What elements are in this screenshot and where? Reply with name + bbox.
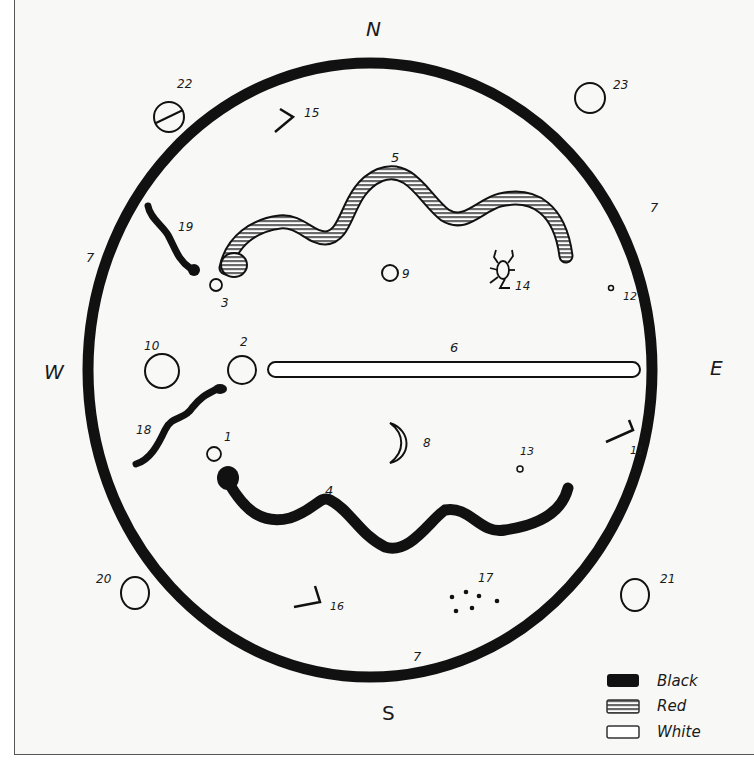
legend: Black Red White xyxy=(607,672,701,741)
dot-13-icon xyxy=(517,466,523,472)
label-7-left: 7 xyxy=(86,250,95,265)
white-bar-6-icon xyxy=(268,362,640,377)
legend-swatch-white xyxy=(607,726,639,738)
insect-14-icon xyxy=(490,250,515,288)
black-snake-19-head xyxy=(188,264,200,276)
dot-12-icon xyxy=(609,286,614,291)
label-18: 18 xyxy=(136,423,152,437)
small-circle-3-icon xyxy=(210,279,222,291)
legend-label-black: Black xyxy=(657,672,699,690)
legend-label-red: Red xyxy=(657,697,687,715)
circle-20-icon xyxy=(121,577,149,609)
dot-cluster-17-icon xyxy=(450,590,500,614)
black-snake-19-icon xyxy=(148,206,190,268)
angle-mark-15-icon xyxy=(275,109,293,132)
crossed-circle-icon xyxy=(154,102,184,132)
black-snake-18-head xyxy=(213,384,227,394)
label-5: 5 xyxy=(391,150,399,165)
label-1: 1 xyxy=(224,430,232,444)
legend-swatch-red xyxy=(607,700,639,713)
label-19: 19 xyxy=(178,220,193,234)
label-23: 23 xyxy=(613,78,628,92)
label-14: 14 xyxy=(515,279,530,293)
label-6: 6 xyxy=(450,340,458,355)
label-17: 17 xyxy=(478,571,494,585)
label-7-right: 7 xyxy=(650,200,659,215)
label-12: 12 xyxy=(623,290,637,303)
label-4: 4 xyxy=(325,483,333,498)
label-13: 13 xyxy=(520,445,534,458)
legend-swatch-black xyxy=(607,674,639,687)
label-21: 21 xyxy=(660,572,675,586)
label-10: 10 xyxy=(144,339,160,353)
label-3: 3 xyxy=(221,296,229,310)
circle-21-icon xyxy=(621,579,649,611)
black-snake-4-icon xyxy=(230,485,568,548)
angle-mark-16-icon xyxy=(294,586,320,607)
label-16: 16 xyxy=(330,600,344,613)
black-snake-4-head xyxy=(217,466,239,490)
label-8: 8 xyxy=(423,436,431,450)
direction-south: S xyxy=(382,701,395,725)
circle-2-icon xyxy=(228,356,256,384)
label-7-bottom: 7 xyxy=(413,649,422,664)
direction-east: E xyxy=(710,356,723,380)
angle-mark-11-icon xyxy=(606,420,633,442)
label-2: 2 xyxy=(240,335,248,349)
label-11: 11 xyxy=(630,444,644,457)
red-snake-5-head xyxy=(221,253,247,277)
legend-label-white: White xyxy=(657,723,701,741)
label-22: 22 xyxy=(177,77,192,91)
label-15: 15 xyxy=(304,106,319,120)
circle-23-icon xyxy=(575,83,605,113)
circle-10-icon xyxy=(145,354,179,388)
label-9: 9 xyxy=(402,267,410,281)
circle-9-icon xyxy=(382,265,398,281)
crescent-8-icon xyxy=(390,423,407,463)
small-circle-1-icon xyxy=(207,447,221,461)
direction-north: N xyxy=(366,17,381,41)
direction-west: W xyxy=(44,360,65,384)
red-snake-5-fill xyxy=(226,173,566,268)
label-20: 20 xyxy=(96,572,112,586)
